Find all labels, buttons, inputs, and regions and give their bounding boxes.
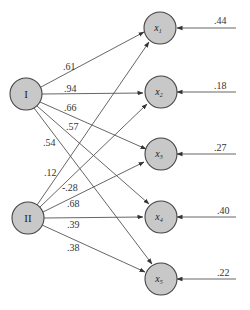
path-II-x4 — [44, 217, 143, 218]
loading-I-x4: .57 — [66, 121, 79, 132]
path-II-x5 — [42, 225, 145, 272]
loading-II-x3: .68 — [67, 198, 80, 209]
indicator-node-x1: x1 — [144, 12, 176, 44]
error-label-x5: .22 — [217, 267, 230, 278]
loading-II-x2: -.28 — [62, 182, 78, 193]
path-I-x1 — [41, 32, 144, 87]
path-II-x1 — [37, 42, 149, 205]
loading-II-x4: .39 — [67, 219, 80, 230]
path-II-x2 — [40, 104, 147, 207]
indicator-node-x2: x2 — [145, 76, 177, 108]
indicator-node-x4: x4 — [145, 201, 177, 233]
factor-label-I: I — [24, 88, 28, 100]
loading-I-x5: .54 — [43, 137, 56, 148]
error-label-x1: .44 — [214, 15, 227, 26]
path-I-x5 — [34, 108, 152, 264]
loading-I-x3: .66 — [64, 102, 77, 113]
factor-label-II: II — [24, 212, 32, 224]
path-I-x3 — [40, 102, 146, 149]
loading-I-x1: .61 — [63, 61, 76, 72]
path-I-x2 — [42, 93, 143, 94]
error-label-x2: .18 — [214, 80, 227, 91]
loading-II-x1: .12 — [44, 167, 57, 178]
error-label-x4: .40 — [217, 205, 230, 216]
error-paths — [177, 28, 236, 279]
error-label-x3: .27 — [214, 142, 227, 153]
path-I-x4 — [37, 106, 149, 204]
loading-II-x5: .38 — [67, 242, 80, 253]
path-II-x3 — [43, 162, 144, 212]
factor-node-II: II — [12, 202, 44, 234]
indicator-node-x5: x5 — [145, 263, 177, 295]
indicator-node-x3: x3 — [145, 138, 177, 170]
path-diagram: I II x1 x2 x3 x4 x5 .61 .94 .66 .57 .54 … — [0, 0, 250, 310]
factor-node-I: I — [10, 78, 42, 110]
loading-I-x2: .94 — [64, 83, 77, 94]
